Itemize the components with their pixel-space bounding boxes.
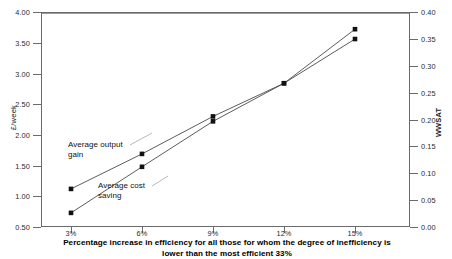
data-point-marker [140,165,145,170]
annotation-leader-lines [130,133,168,186]
annotation-output-gain: Average output gain [68,140,123,160]
data-point-marker [69,211,74,216]
x-axis-title-line2: lower than the most efficient 33% [162,249,292,258]
series-line [71,29,355,189]
chart-container: £/week WWSAT 0.50 1.00 1.50 2.00 2.50 3.… [0,0,452,259]
data-point-marker [282,81,287,86]
annotation-leader-line [152,176,168,186]
data-point-marker [353,37,358,42]
data-point-marker [69,187,74,192]
series-average-output-gain [69,27,358,191]
data-point-marker [140,152,145,157]
data-point-marker [211,119,216,124]
annotation-cost-saving: Average cost saving [98,181,145,201]
data-point-marker [211,114,216,119]
annotation-leader-line [130,133,152,145]
series-layer [0,0,452,259]
x-axis-title: Percentage increase in efficiency for al… [22,238,432,259]
data-point-marker [353,27,358,32]
x-axis-title-line1: Percentage increase in efficiency for al… [63,238,391,247]
